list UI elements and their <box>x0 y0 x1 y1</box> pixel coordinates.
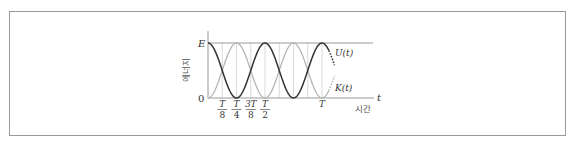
x-tick-3: T2 <box>260 99 270 120</box>
svg-text:8: 8 <box>248 110 254 120</box>
svg-text:T: T <box>262 99 269 109</box>
kinetic-energy-curve-dotted-end <box>329 76 335 91</box>
svg-text:T: T <box>233 99 240 109</box>
U-curve-label: U(t) <box>335 48 354 58</box>
x-tick-1: T4 <box>232 99 242 120</box>
svg-text:T: T <box>219 99 226 109</box>
x-tick-2: 3T8 <box>245 99 258 120</box>
K-curve-label: K(t) <box>334 83 353 93</box>
x-axis-label: 시간 <box>355 104 371 114</box>
svg-text:T: T <box>319 99 326 109</box>
svg-text:3T: 3T <box>245 99 258 109</box>
x-tick-4: T <box>319 99 326 109</box>
x-axis-symbol: t <box>377 92 382 103</box>
svg-text:8: 8 <box>219 110 225 120</box>
y-tick-E: E <box>197 38 206 49</box>
y-tick-0: 0 <box>198 93 204 104</box>
x-tick-0: T8 <box>217 99 227 120</box>
svg-text:4: 4 <box>234 110 240 120</box>
x-tick-labels: T8T43T8T2T <box>217 99 326 120</box>
potential-energy-curve-dotted-end <box>329 50 335 65</box>
svg-text:2: 2 <box>262 110 268 120</box>
potential-energy-curve <box>208 43 329 98</box>
energy-time-diagram: E 0 에너지 t 시간 U(t) K(t) T8T43T8T2T <box>0 0 582 144</box>
y-axis-label: 에너지 <box>181 58 191 82</box>
kinetic-energy-curve <box>208 43 329 98</box>
